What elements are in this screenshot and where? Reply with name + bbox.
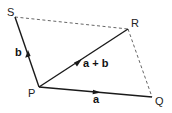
point-label-r: R — [131, 17, 139, 29]
point-label-s: S — [7, 6, 14, 18]
vector-label-a-plus-b: a + b — [83, 57, 109, 69]
point-label-q: Q — [155, 95, 164, 107]
point-label-p: P — [28, 87, 35, 99]
vector-label-b: b — [15, 46, 22, 58]
vector-label-a: a — [93, 93, 100, 105]
edge-r-q — [128, 29, 152, 97]
edge-s-r — [15, 17, 128, 29]
parallelogram-diagram: S R P Q b a + b a — [0, 0, 172, 113]
arrowhead-a-plus-b-icon — [74, 59, 82, 67]
